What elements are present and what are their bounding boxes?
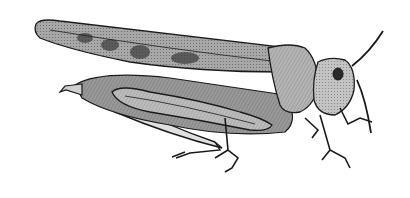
eye <box>333 68 343 80</box>
grasshopper-illustration <box>0 0 410 198</box>
antenna <box>352 31 383 133</box>
tail-tip <box>60 84 82 95</box>
illustration-canvas <box>0 0 410 198</box>
